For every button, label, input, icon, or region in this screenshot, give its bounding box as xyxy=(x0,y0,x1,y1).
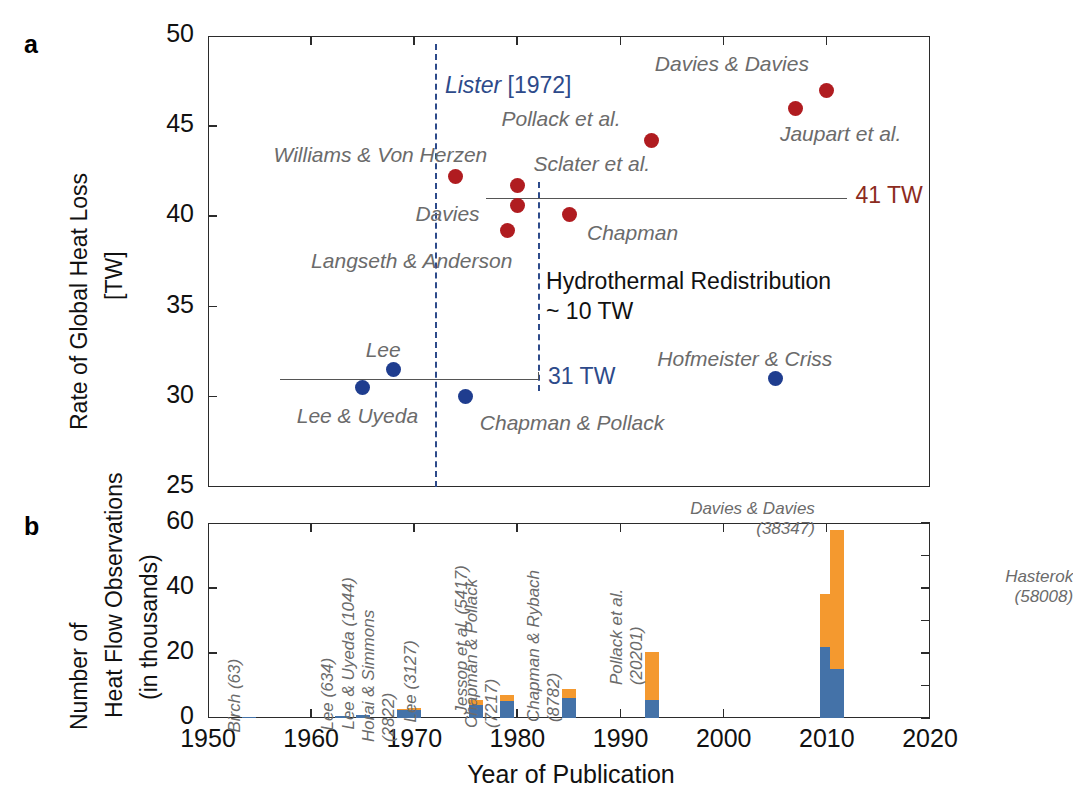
bar-segment-orange xyxy=(562,689,576,697)
lister-name: Lister xyxy=(445,72,501,98)
panel-a-xtick-2000 xyxy=(723,36,725,45)
panel-b-xtick-bottom-1980 xyxy=(516,709,518,718)
data-point-label-pollack-et-al-: Pollack et al. xyxy=(502,107,621,131)
panel-a-ytick-30 xyxy=(208,396,217,398)
bar-label-line: (2822) xyxy=(378,610,398,742)
bar-chapman-pollack-1979 xyxy=(500,695,514,718)
bar-label-line: Chapman & Pollack xyxy=(462,578,482,727)
panel-b-ytick-right-0 xyxy=(921,717,930,719)
panel-b-ytick-right-minor-50 xyxy=(921,555,930,557)
panel-b-ytick-label-60: 60 xyxy=(134,506,194,535)
panel-a-ylabel: Rate of Global Heat Loss xyxy=(66,173,92,430)
x-axis-title: Year of Publication xyxy=(391,760,751,789)
bar-label-lee-3127: Lee (3127) xyxy=(401,640,421,722)
data-point-label-williams-von-herzen: Williams & Von Herzen xyxy=(274,143,488,167)
x-axis-tick-label-2000: 2000 xyxy=(679,724,769,753)
x-axis-tick-label-2020: 2020 xyxy=(885,724,975,753)
bar-segment-blue xyxy=(500,701,514,718)
bar-label-lee-uyeda: Lee & Uyeda (1044) xyxy=(339,577,359,729)
bar-label-line: Birch (63) xyxy=(226,659,246,733)
data-point-label-chapman: Chapman xyxy=(587,221,678,245)
panel-b-ytick-label-20: 20 xyxy=(134,636,194,665)
panel-b-xtick-top-2010 xyxy=(826,523,828,532)
bar-label-hasterok: Hasterok(58008) xyxy=(863,567,1073,606)
panel-b-xtick-bottom-1990 xyxy=(620,709,622,718)
bar-label-line: Lee (634) xyxy=(319,658,339,731)
panel-b-ytick-right-minor-30 xyxy=(921,620,930,622)
panel-a-letter: a xyxy=(24,30,38,59)
bar-label-line: (38347) xyxy=(605,519,815,539)
bar-label-line: (58008) xyxy=(863,587,1073,607)
data-point-label-sclater-et-al-: Sclater et al. xyxy=(533,152,650,176)
panel-b-ytick-right-20 xyxy=(921,652,930,654)
data-point-langseth-anderson xyxy=(500,223,515,238)
bar-hasterok-2011 xyxy=(830,530,844,719)
hydrothermal-step-dashed-line xyxy=(538,182,540,391)
panel-b-ytick-20 xyxy=(208,652,217,654)
bar-chapman-rybach-1985 xyxy=(562,689,576,718)
x-axis-tick-label-1980: 1980 xyxy=(472,724,562,753)
panel-a-xtick-1960 xyxy=(310,36,312,45)
data-point-chapman xyxy=(562,207,577,222)
panel-b-ylabel-line2: Heat Flow Observations xyxy=(101,473,128,718)
bar-label-lee-634: Lee (634) xyxy=(319,658,339,731)
data-point-label-davies-davies: Davies & Davies xyxy=(655,52,809,76)
bar-label-line: Hasterok xyxy=(863,567,1073,587)
data-point-label-jaupart-et-al-: Jaupart et al. xyxy=(780,122,901,146)
bar-label-line: Chapman & Rybach xyxy=(524,570,544,722)
data-point-label-lee-uyeda: Lee & Uyeda xyxy=(297,404,418,428)
panel-a-ytick-label-40: 40 xyxy=(134,199,194,228)
panel-a-xtick-1980 xyxy=(516,36,518,45)
panel-a-xtick-1990 xyxy=(620,36,622,45)
bar-label-line: Davies & Davies xyxy=(605,499,815,519)
panel-a-ytick-45 xyxy=(208,125,217,127)
data-point-hofmeister-criss xyxy=(768,371,783,386)
panel-a-xtick-1970 xyxy=(413,36,415,45)
data-point-jaupart-et-al- xyxy=(788,101,803,116)
panel-a-ytick-label-30: 30 xyxy=(134,380,194,409)
panel-b-xtick-bottom-1960 xyxy=(310,709,312,718)
panel-b-ytick-right-60 xyxy=(921,522,930,524)
bar-label-line: Horai & Simmons xyxy=(359,610,379,742)
panel-b-ylabel-line1: Number of xyxy=(66,623,93,730)
reference-line-31tw xyxy=(280,379,538,380)
hydrothermal-annotation: Hydrothermal Redistribution~ 10 TW xyxy=(546,267,831,327)
bar-label-chapman-pollack: Chapman & Pollack(7217) xyxy=(462,578,501,727)
panel-b-letter: b xyxy=(24,512,39,541)
bar-label-line: (7217) xyxy=(482,578,502,727)
panel-a-ytick-label-50: 50 xyxy=(134,19,194,48)
bar-label-line: (20201) xyxy=(626,588,646,684)
reference-line-31tw-cap xyxy=(538,372,539,380)
bar-pollack-et-al--1993 xyxy=(645,652,659,718)
panel-b-xtick-top-1980 xyxy=(516,523,518,532)
data-point-label-chapman-pollack: Chapman & Pollack xyxy=(480,411,664,435)
bar-label-pollack-et-al-: Pollack et al.(20201) xyxy=(606,588,645,684)
tw-31-label: 31 TW xyxy=(548,363,615,390)
panel-b-xtick-top-1960 xyxy=(310,523,312,532)
data-point-label-hofmeister-criss: Hofmeister & Criss xyxy=(657,347,832,371)
bar-segment-orange xyxy=(645,652,659,699)
data-point-davies xyxy=(510,198,525,213)
panel-a-ylabel-units: [TW] xyxy=(101,251,128,300)
bar-segment-orange xyxy=(830,530,844,670)
bar-label-davies-davies: Davies & Davies(38347) xyxy=(605,499,815,538)
panel-b-ytick-40 xyxy=(208,587,217,589)
panel-b-xtick-bottom-2000 xyxy=(723,709,725,718)
hydrothermal-line2: ~ 10 TW xyxy=(546,297,831,327)
panel-b-xtick-top-1970 xyxy=(413,523,415,532)
panel-b-ytick-right-minor-10 xyxy=(921,685,930,687)
bar-label-line: Lee & Uyeda (1044) xyxy=(339,577,359,729)
panel-a-ytick-label-35: 35 xyxy=(134,290,194,319)
lister-year: [1972] xyxy=(501,72,571,98)
panel-a-xtick-2010 xyxy=(826,36,828,45)
panel-a-ytick-label-25: 25 xyxy=(134,470,194,499)
bar-label-birch: Birch (63) xyxy=(226,659,246,733)
data-point-label-langseth-anderson: Langseth & Anderson xyxy=(311,249,512,273)
hydrothermal-line1: Hydrothermal Redistribution xyxy=(546,267,831,297)
x-axis-tick-label-1990: 1990 xyxy=(576,724,666,753)
bar-segment-blue xyxy=(830,669,844,718)
bar-label-line: Lee (3127) xyxy=(401,640,421,722)
bar-segment-blue xyxy=(645,700,659,718)
tw-41-label: 41 TW xyxy=(855,182,922,209)
